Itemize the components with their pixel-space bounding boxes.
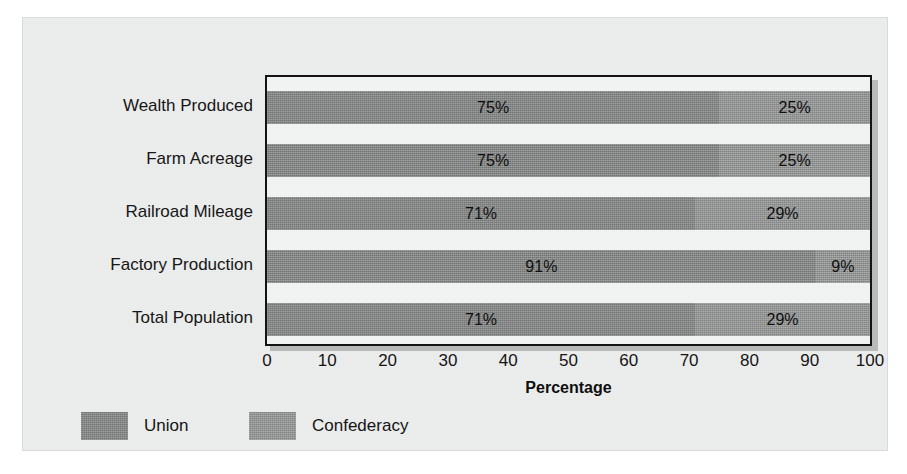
- bar-segment-confederacy: 9%: [816, 250, 870, 283]
- plot-area: 75%25%75%25%71%29%91%9%71%29%: [265, 75, 872, 346]
- category-label: Total Population: [53, 308, 253, 328]
- x-axis-tick-label: 60: [619, 351, 638, 371]
- category-label: Railroad Mileage: [53, 202, 253, 222]
- x-axis-tick-label: 50: [559, 351, 578, 371]
- bar-segment-union: 75%: [267, 144, 719, 177]
- bar-row: 75%25%: [267, 144, 870, 177]
- x-axis-tick-label: 90: [800, 351, 819, 371]
- bars-container: 75%25%75%25%71%29%91%9%71%29%: [267, 77, 870, 344]
- category-label: Farm Acreage: [53, 149, 253, 169]
- legend-label: Confederacy: [312, 416, 408, 436]
- bar-segment-confederacy: 29%: [695, 303, 870, 336]
- bar-row: 71%29%: [267, 303, 870, 336]
- bar-value-label: 71%: [267, 205, 695, 223]
- bar-row: 71%29%: [267, 197, 870, 230]
- legend-entry[interactable]: Confederacy: [249, 410, 408, 442]
- bar-segment-confederacy: 25%: [719, 144, 870, 177]
- bar-segment-union: 71%: [267, 197, 695, 230]
- bar-value-label: 29%: [695, 311, 870, 329]
- bar-segment-union: 71%: [267, 303, 695, 336]
- legend-swatch-icon: [81, 412, 128, 440]
- bar-value-label: 29%: [695, 205, 870, 223]
- x-axis-tick-label: 40: [499, 351, 518, 371]
- value-axis-ticks: 0102030405060708090100: [265, 351, 872, 377]
- category-label: Wealth Produced: [53, 96, 253, 116]
- x-axis-title: Percentage: [265, 379, 872, 397]
- x-axis-tick-label: 80: [740, 351, 759, 371]
- x-axis-tick-label: 100: [856, 351, 884, 371]
- x-axis-tick-label: 20: [378, 351, 397, 371]
- bar-segment-confederacy: 29%: [695, 197, 870, 230]
- x-axis-tick-label: 10: [318, 351, 337, 371]
- scanned-page: Wealth ProducedFarm AcreageRailroad Mile…: [0, 0, 907, 474]
- chart-card: Wealth ProducedFarm AcreageRailroad Mile…: [22, 17, 888, 451]
- x-axis-tick-label: 0: [262, 351, 271, 371]
- bar-segment-union: 91%: [267, 250, 816, 283]
- bar-value-label: 25%: [719, 152, 870, 170]
- bar-segment-union: 75%: [267, 91, 719, 124]
- legend-label: Union: [144, 416, 188, 436]
- bar-value-label: 71%: [267, 311, 695, 329]
- bar-value-label: 9%: [816, 258, 870, 276]
- bar-value-label: 25%: [719, 99, 870, 117]
- legend-swatch-icon: [249, 412, 296, 440]
- bar-segment-confederacy: 25%: [719, 91, 870, 124]
- legend-entry[interactable]: Union: [81, 410, 188, 442]
- category-axis-labels: Wealth ProducedFarm AcreageRailroad Mile…: [53, 58, 253, 329]
- x-axis-tick-label: 30: [438, 351, 457, 371]
- bar-value-label: 91%: [267, 258, 816, 276]
- x-axis-tick-label: 70: [680, 351, 699, 371]
- bar-row: 91%9%: [267, 250, 870, 283]
- bar-value-label: 75%: [267, 99, 719, 117]
- bar-value-label: 75%: [267, 152, 719, 170]
- bar-row: 75%25%: [267, 91, 870, 124]
- category-label: Factory Production: [53, 255, 253, 275]
